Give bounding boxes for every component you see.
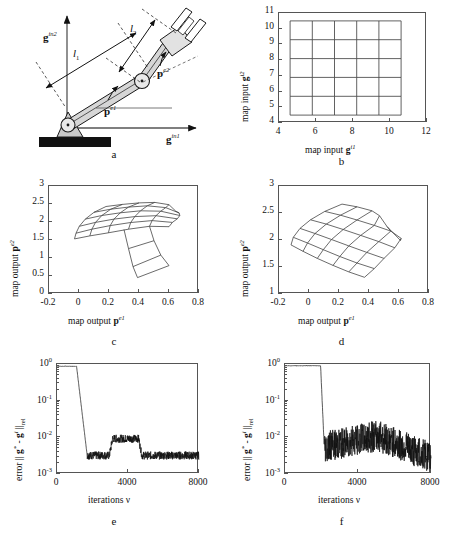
axis-minor-tick (56, 411, 59, 412)
axis-tick-label: 11 (234, 5, 274, 15)
panel-a-caption: a (0, 148, 228, 160)
panel-e-xlabel: iterations ν (88, 495, 130, 505)
axis-tick-mark (278, 122, 282, 123)
panel-b-mesh (279, 13, 427, 123)
axis-tick-mark (278, 28, 282, 29)
axis-tick-label: 0.8 (406, 297, 450, 307)
axis-tick-mark (278, 12, 282, 13)
mesh-col (333, 216, 380, 266)
panel-e-ylabel: error || g* - gi ||rel (12, 418, 26, 481)
axis-minor-tick (56, 371, 59, 372)
axis-tick-mark (127, 469, 128, 473)
panel-e-caption: e (0, 515, 228, 527)
panel-e: 04000800010010-110-210-3 iterations ν er… (0, 355, 228, 536)
mesh-fold-rung (129, 241, 155, 249)
axis-tick-mark (428, 289, 429, 293)
panel-a-label-gin2: gin2 (43, 30, 57, 43)
axis-minor-tick (56, 447, 59, 448)
axis-minor-tick (284, 374, 287, 375)
axis-tick-mark (198, 469, 199, 473)
axis-minor-tick (284, 403, 287, 404)
axis-tick-mark (48, 185, 52, 186)
axis-tick-label: 0 (34, 477, 78, 487)
mesh-fold (150, 226, 170, 265)
axis-minor-tick (56, 462, 59, 463)
axis-minor-tick (284, 414, 287, 415)
mesh-col (291, 204, 342, 245)
robot-arm-diagram (0, 0, 228, 160)
axis-tick-mark (138, 289, 139, 293)
axis-minor-tick (284, 447, 287, 448)
axis-tick-label: 2 (4, 214, 44, 224)
axis-minor-tick (56, 451, 59, 452)
panel-d-ylabel: map output pe2 (238, 240, 250, 297)
axis-tick-mark (278, 212, 282, 213)
panel-d: -0.200.20.40.60.811.522.53 map output pe… (228, 175, 455, 355)
axis-tick-mark (357, 469, 358, 473)
axis-tick-mark (278, 185, 282, 186)
axis-minor-tick (284, 389, 287, 390)
panel-a: gin2 gin1 l1 l2 pe1 pe2 a (0, 0, 228, 170)
panel-e-error-curve (57, 364, 199, 474)
link-1-centerline (66, 79, 143, 126)
axis-tick-label: 3 (4, 178, 44, 188)
axis-minor-tick (56, 382, 59, 383)
axis-tick-mark (278, 239, 282, 240)
axis-tick-mark (48, 257, 52, 258)
axis-minor-tick (56, 367, 59, 368)
axis-tick-mark (278, 43, 282, 44)
panel-c-xlabel: map output pe1 (68, 314, 125, 326)
axis-tick-mark (398, 289, 399, 293)
mesh-row (291, 245, 365, 277)
panel-f-xlabel: iterations ν (318, 495, 360, 505)
dimension-guide-l2-end (142, 9, 176, 33)
axis-tick-label: 100 (12, 356, 52, 368)
panel-b-ylabel: map input gi2 (238, 72, 250, 122)
figure-root: gin2 gin1 l1 l2 pe1 pe2 a 46810124567891… (0, 0, 455, 536)
axis-minor-tick (56, 425, 59, 426)
axis-minor-tick (284, 371, 287, 372)
panel-f-caption: f (228, 515, 455, 527)
mesh-row (325, 211, 401, 238)
link-1 (64, 75, 146, 131)
axis-minor-tick (284, 419, 287, 420)
panel-b-caption: b (228, 155, 455, 167)
axis-minor-tick (284, 451, 287, 452)
axis-tick-mark (315, 118, 316, 122)
panel-d-xlabel: map output pe1 (298, 314, 355, 326)
axis-minor-tick (56, 456, 59, 457)
dimension-line-l1 (46, 33, 136, 88)
axis-minor-tick (56, 378, 59, 379)
axis-minor-tick (56, 365, 59, 366)
axis-tick-label: 10-1 (240, 393, 280, 405)
axis-tick-mark (389, 118, 390, 122)
axis-minor-tick (284, 382, 287, 383)
panel-f-ylabel: error || g* - gi ||rel (240, 418, 254, 481)
axis-minor-tick (56, 419, 59, 420)
axis-minor-tick (284, 462, 287, 463)
axis-tick-label: 2.5 (4, 196, 44, 206)
axis-tick-mark (368, 289, 369, 293)
axis-tick-mark (308, 289, 309, 293)
axis-minor-tick (284, 411, 287, 412)
axis-tick-mark (278, 91, 282, 92)
axis-tick-mark (352, 118, 353, 122)
axis-tick-label: 3 (234, 178, 274, 188)
panel-d-mesh (279, 186, 429, 294)
axis-minor-tick (284, 367, 287, 368)
axis-minor-tick (56, 369, 59, 370)
axis-minor-tick (284, 378, 287, 379)
panel-a-label-gin1: gin1 (166, 132, 180, 145)
axis-minor-tick (56, 442, 59, 443)
axis-tick-mark (48, 293, 52, 294)
axis-tick-label: 10-1 (12, 393, 52, 405)
panel-d-caption: d (228, 335, 455, 347)
axis-tick-mark (284, 473, 288, 474)
axis-tick-mark (168, 289, 169, 293)
axis-tick-label: 0.8 (176, 297, 220, 307)
axis-minor-tick (56, 389, 59, 390)
axis-tick-mark (430, 469, 431, 473)
dimension-guide-l2-start (106, 58, 140, 82)
axis-tick-mark (108, 289, 109, 293)
panel-f: 04000800010010-110-210-3 iterations ν er… (228, 355, 455, 536)
